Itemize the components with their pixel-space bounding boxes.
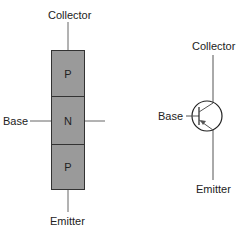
symbol-emitter-label: Emitter [196,183,231,195]
symbol-base-label: Base [158,110,183,122]
diagram-lines [0,0,246,237]
n-region-base: N [51,96,85,145]
p-region-emitter: P [51,144,85,190]
block-emitter-label: Emitter [50,215,85,227]
p-region-collector: P [51,50,85,97]
pnp-transistor-symbol-icon [186,55,222,180]
region-label: P [64,68,71,80]
block-base-label: Base [3,115,28,127]
region-label: N [64,115,72,127]
block-collector-label: Collector [48,9,91,21]
symbol-collector-label: Collector [192,40,235,52]
region-label: P [64,161,71,173]
